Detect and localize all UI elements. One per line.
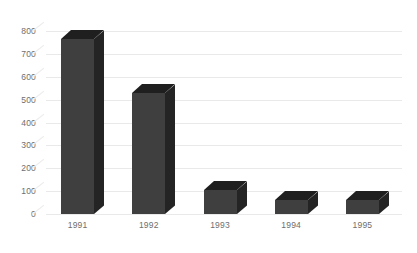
bar-front-face: [275, 200, 308, 214]
bar-front-face: [204, 190, 237, 214]
bar-side-face: [94, 31, 104, 214]
bar[interactable]: [132, 31, 165, 214]
bar[interactable]: [275, 31, 308, 214]
y-axis: 8007006005004003002001000: [0, 0, 44, 253]
bar-side-face: [165, 84, 175, 214]
x-axis-tick-label: 1993: [198, 221, 243, 230]
bar-chart: 8007006005004003002001000 19911992199319…: [0, 0, 417, 253]
bar-front-face: [346, 200, 379, 214]
plot-area: [46, 31, 402, 214]
bar[interactable]: [346, 31, 379, 214]
gridline: [46, 214, 402, 215]
x-axis-tick-label: 1995: [340, 221, 385, 230]
bar-front-face: [132, 93, 165, 214]
bar-front-face: [61, 39, 94, 214]
x-axis: 19911992199319941995: [46, 221, 402, 241]
x-axis-tick-label: 1994: [269, 221, 314, 230]
x-axis-tick-label: 1991: [55, 221, 100, 230]
bar[interactable]: [204, 31, 237, 214]
x-axis-tick-label: 1992: [126, 221, 171, 230]
bar[interactable]: [61, 31, 94, 214]
